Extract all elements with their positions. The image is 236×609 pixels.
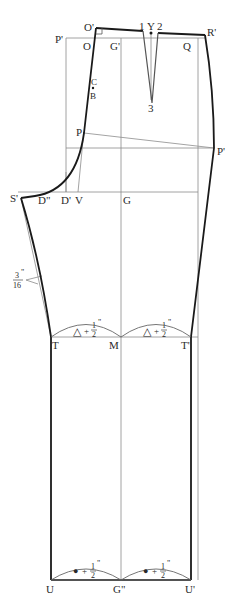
hem-right-numerator: 1 [161, 562, 165, 571]
label-y: Y [147, 20, 155, 32]
label-t-prime: T' [181, 339, 190, 351]
hem-left-symbol: ● [73, 566, 78, 576]
label-q: Q [183, 40, 191, 52]
label-m: M [109, 339, 119, 351]
inseam-straight-line [21, 198, 51, 337]
label-u: U [46, 583, 54, 595]
knee-right-plus: + [154, 326, 159, 336]
offset-numerator: 3 [15, 271, 19, 280]
knee-right-denominator: 2 [162, 330, 166, 339]
b-point-dot [92, 87, 94, 89]
label-s-prime: S' [10, 192, 18, 204]
hem-left-unit: " [97, 559, 100, 568]
label-p-prime-hip: P' [217, 145, 225, 157]
knee-left-numerator: 1 [92, 321, 96, 330]
offset-indicator-top [26, 276, 42, 280]
knee-left-plus: + [84, 326, 89, 336]
hem-right-plus: + [152, 566, 157, 576]
label-2: 2 [157, 20, 163, 32]
label-1: 1 [139, 20, 145, 32]
label-o: O [83, 40, 91, 52]
knee-left-annotation: △ + 1 2 " [73, 318, 101, 339]
label-u-prime: U' [185, 583, 195, 595]
hem-left-numerator: 1 [91, 562, 95, 571]
hem-right-denominator: 2 [161, 571, 165, 580]
knee-right-symbol: △ [143, 325, 152, 337]
side-seam [191, 35, 214, 580]
knee-right-unit: " [168, 318, 171, 327]
dart [143, 31, 158, 103]
offset-indicator-bottom [26, 280, 38, 284]
offset-denominator: 16 [13, 281, 21, 290]
hem-left-plus: + [82, 566, 87, 576]
hem-left-denominator: 2 [91, 571, 95, 580]
point-labels: O' P' O G' 1 Y 2 Q R' C B 3 P P' S' D" D… [10, 20, 225, 595]
offset-unit: " [21, 268, 24, 277]
hem-right-unit: " [167, 559, 170, 568]
construction-lines [18, 33, 214, 580]
label-3: 3 [148, 102, 154, 114]
waistline-right [158, 33, 205, 35]
knee-left-denominator: 2 [92, 330, 96, 339]
pattern-diagram: O' P' O G' 1 Y 2 Q R' C B 3 P P' S' D" D… [0, 0, 236, 609]
label-d-prime: D' [61, 194, 71, 206]
label-g-double-prime: G" [113, 583, 125, 595]
label-o-prime: O' [84, 21, 94, 33]
inseam [21, 198, 51, 580]
knee-right-annotation: △ + 1 2 " [143, 318, 171, 339]
label-g-prime: G' [110, 40, 120, 52]
label-r-prime: R' [207, 26, 216, 38]
label-v: V [75, 194, 83, 206]
waistline-left [96, 28, 143, 31]
label-t: T [52, 339, 59, 351]
knee-right-numerator: 1 [162, 321, 166, 330]
pattern-outline [21, 28, 214, 580]
label-d-double-prime: D" [38, 194, 50, 206]
p-to-p-prime-line [84, 133, 214, 148]
label-c: C [91, 77, 97, 87]
knee-left-unit: " [98, 318, 101, 327]
seam-offset-annotation: 3 16 " [13, 268, 24, 290]
label-g: G [123, 194, 131, 206]
label-p: P [76, 126, 82, 138]
hem-right-symbol: ● [143, 566, 148, 576]
label-p-prime-top: P' [55, 33, 63, 45]
front-rise [21, 28, 96, 198]
knee-left-symbol: △ [73, 325, 82, 337]
label-b: B [90, 91, 96, 101]
